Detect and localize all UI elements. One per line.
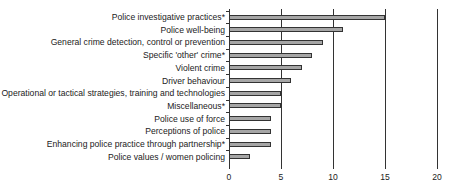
category-label: Specific 'other' crime* (143, 50, 225, 60)
bar (229, 27, 343, 32)
bar (229, 142, 271, 147)
x-tick-label: 10 (323, 172, 343, 182)
gridline (333, 9, 334, 169)
bar (229, 65, 302, 70)
gridline (437, 9, 438, 169)
bar (229, 15, 385, 20)
category-label: General crime detection, control or prev… (51, 37, 225, 47)
category-label: Police well-being (161, 25, 226, 35)
category-label: Violent crime (175, 63, 225, 73)
bar (229, 78, 291, 83)
x-tick-label: 0 (219, 172, 239, 182)
gridline (385, 9, 386, 169)
horizontal-bar-chart: Police investigative practices*Police we… (0, 0, 451, 186)
x-tick-label: 5 (271, 172, 291, 182)
category-label: Operational or tactical strategies, trai… (1, 88, 225, 98)
bar (229, 91, 281, 96)
category-label: Police use of force (154, 114, 225, 124)
category-label: Miscellaneous* (167, 101, 225, 111)
category-label: Enhancing police practice through partne… (47, 139, 225, 149)
bar (229, 116, 271, 121)
bar (229, 103, 281, 108)
bar (229, 129, 271, 134)
bar (229, 53, 312, 58)
gridline (281, 9, 282, 169)
category-label: Perceptions of police (145, 126, 225, 136)
category-label: Driver behaviour (162, 76, 225, 86)
category-label: Police values / women policing (108, 152, 225, 162)
bar (229, 40, 323, 45)
category-label: Police investigative practices* (112, 12, 225, 22)
x-tick-label: 20 (427, 172, 447, 182)
bar (229, 154, 250, 159)
x-tick-label: 15 (375, 172, 395, 182)
